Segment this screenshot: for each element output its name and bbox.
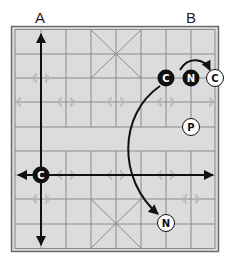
black-knight-piece[interactable]: N: [183, 70, 200, 87]
svg-text:C: C: [211, 73, 218, 84]
svg-text:N: N: [162, 218, 170, 229]
white-knight-piece[interactable]: N: [158, 215, 175, 232]
svg-text:C: C: [162, 73, 169, 84]
svg-text:C: C: [37, 170, 44, 181]
svg-text:P: P: [187, 122, 194, 133]
xiangqi-board: C N C P C N: [0, 0, 237, 259]
white-cannon-piece[interactable]: C: [207, 70, 224, 87]
svg-text:N: N: [187, 73, 195, 84]
board-outer-border: [12, 27, 219, 252]
white-pawn-piece[interactable]: P: [183, 119, 200, 136]
black-cannon-piece[interactable]: C: [158, 70, 175, 87]
black-cannon-piece-left[interactable]: C: [33, 167, 50, 184]
